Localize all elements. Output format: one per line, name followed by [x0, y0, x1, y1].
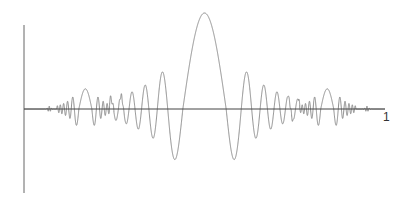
x-axis-end-label: 1 [383, 111, 390, 123]
chart-plot-area [0, 0, 411, 200]
signal-curve [24, 13, 385, 160]
